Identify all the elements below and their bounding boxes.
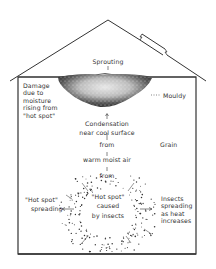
label-insects-line: Insects (161, 195, 193, 202)
label-from-2: from (100, 172, 115, 179)
label-hot-spot-spreading-line: spreading (25, 205, 63, 214)
label-insects-line: as heat (161, 210, 193, 217)
label-damage-line: "hot spot" (23, 112, 58, 119)
label-hot-spot-spreading-line: "Hot spot" (25, 196, 63, 205)
label-hot-spot-line: "Hot spot" (92, 192, 125, 201)
label-condensation: Condensation near cool surface (79, 120, 134, 136)
label-mouldy: Mouldy (163, 92, 186, 99)
label-hot-spot-line: caused (92, 201, 125, 210)
label-insects-line: spreading (161, 202, 193, 209)
mouldy-area (58, 74, 152, 107)
label-condensation-line: Condensation (79, 120, 134, 127)
label-damage-line: moisture (23, 97, 58, 104)
label-damage-line: due to (23, 89, 58, 96)
label-insects-spreading: Insects spreading as heat increases (161, 195, 193, 225)
label-hot-spot-cause: "Hot spot" caused by insects (92, 192, 125, 220)
label-insects-line: increases (161, 217, 193, 224)
label-from-1: from (100, 141, 115, 148)
label-damage-line: Damage (23, 82, 58, 89)
label-damage: Damage due to moisture rising from "hot … (23, 82, 58, 119)
label-hot-spot-line: by insects (92, 211, 125, 220)
label-condensation-line: near cool surface (79, 129, 134, 136)
roof (10, 20, 206, 81)
label-warm-moist-air: warm moist air (83, 156, 131, 163)
label-sprouting: Sprouting (93, 58, 124, 65)
label-damage-line: rising from (23, 104, 58, 111)
label-grain: Grain (160, 141, 177, 148)
label-hot-spot-spreading: "Hot spot" spreading (25, 196, 63, 213)
